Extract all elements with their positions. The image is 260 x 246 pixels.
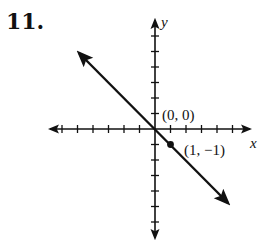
coordinate-graph: y x (0, 0) (1, −1)	[0, 0, 260, 246]
y-axis-label: y	[159, 14, 168, 30]
line-y-equals-neg-x	[79, 53, 228, 203]
point-1-neg1	[167, 141, 174, 148]
origin-label: (0, 0)	[162, 107, 195, 124]
point-label: (1, −1)	[184, 142, 225, 159]
x-axis-label: x	[249, 135, 257, 151]
